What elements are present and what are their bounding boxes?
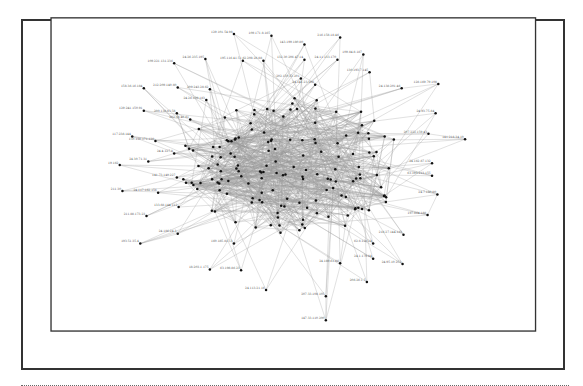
graph-node[interactable]	[263, 131, 265, 133]
graph-node[interactable]	[292, 166, 294, 168]
graph-node[interactable]	[212, 146, 214, 148]
graph-node[interactable]	[233, 155, 235, 157]
graph-node[interactable]	[184, 144, 186, 146]
graph-node[interactable]	[266, 108, 268, 110]
graph-node[interactable]	[383, 135, 385, 137]
graph-node[interactable]	[230, 140, 232, 142]
graph-node[interactable]	[182, 178, 184, 180]
graph-node[interactable]	[280, 205, 282, 207]
graph-node[interactable]	[315, 199, 317, 201]
graph-node[interactable]	[283, 205, 285, 207]
graph-node[interactable]	[361, 124, 363, 126]
graph-node[interactable]	[234, 138, 236, 140]
graph-node[interactable]	[237, 164, 239, 166]
graph-node[interactable]	[359, 173, 361, 175]
graph-node[interactable]	[334, 168, 336, 170]
graph-node[interactable]	[393, 138, 395, 140]
graph-node[interactable]	[368, 151, 370, 153]
graph-node[interactable]	[313, 138, 315, 140]
graph-node[interactable]	[316, 173, 318, 175]
graph-node[interactable]	[282, 174, 284, 176]
graph-node[interactable]	[192, 184, 194, 186]
graph-node[interactable]	[289, 139, 291, 141]
graph-node[interactable]	[301, 176, 303, 178]
graph-node[interactable]	[385, 201, 387, 203]
graph-node[interactable]	[197, 165, 199, 167]
graph-node[interactable]	[304, 227, 306, 229]
graph-node[interactable]	[211, 178, 213, 180]
graph-node[interactable]	[357, 131, 359, 133]
graph-node[interactable]	[316, 212, 318, 214]
graph-node[interactable]	[237, 136, 239, 138]
graph-node[interactable]	[226, 139, 228, 141]
graph-node[interactable]	[368, 138, 370, 140]
graph-node[interactable]	[336, 142, 338, 144]
graph-node[interactable]	[260, 177, 262, 179]
graph-node[interactable]	[357, 206, 359, 208]
graph-node[interactable]	[360, 111, 362, 113]
graph-node[interactable]	[226, 193, 228, 195]
graph-node[interactable]	[327, 215, 329, 217]
graph-node[interactable]	[347, 214, 349, 216]
graph-node[interactable]	[383, 194, 385, 196]
graph-node[interactable]	[276, 212, 278, 214]
graph-node[interactable]	[376, 174, 378, 176]
graph-node[interactable]	[267, 141, 269, 143]
graph-node[interactable]	[214, 210, 216, 212]
graph-node[interactable]	[211, 209, 213, 211]
graph-node[interactable]	[337, 156, 339, 158]
graph-node[interactable]	[227, 180, 229, 182]
graph-node[interactable]	[315, 99, 317, 101]
graph-node[interactable]	[302, 154, 304, 156]
graph-node[interactable]	[234, 221, 236, 223]
graph-node[interactable]	[335, 180, 337, 182]
graph-node[interactable]	[298, 201, 300, 203]
graph-node[interactable]	[277, 216, 279, 218]
graph-node[interactable]	[332, 187, 334, 189]
graph-node[interactable]	[190, 181, 192, 183]
graph-node[interactable]	[235, 167, 237, 169]
graph-node[interactable]	[302, 219, 304, 221]
graph-node[interactable]	[247, 182, 249, 184]
graph-node[interactable]	[272, 189, 274, 191]
graph-node[interactable]	[240, 175, 242, 177]
graph-node[interactable]	[298, 229, 300, 231]
graph-node[interactable]	[218, 182, 220, 184]
graph-node[interactable]	[296, 108, 298, 110]
graph-node[interactable]	[301, 139, 303, 141]
graph-node[interactable]	[325, 189, 327, 191]
graph-node[interactable]	[275, 172, 277, 174]
graph-node[interactable]	[218, 189, 220, 191]
graph-node[interactable]	[218, 146, 220, 148]
graph-node[interactable]	[305, 169, 307, 171]
graph-node[interactable]	[352, 180, 354, 182]
graph-node[interactable]	[345, 134, 347, 136]
graph-node[interactable]	[327, 177, 329, 179]
graph-node[interactable]	[224, 116, 226, 118]
graph-node[interactable]	[207, 167, 209, 169]
graph-node[interactable]	[253, 109, 255, 111]
graph-node[interactable]	[220, 178, 222, 180]
graph-node[interactable]	[314, 122, 316, 124]
graph-node[interactable]	[289, 108, 291, 110]
graph-node[interactable]	[235, 109, 237, 111]
graph-node[interactable]	[301, 223, 303, 225]
graph-node[interactable]	[265, 164, 267, 166]
graph-node[interactable]	[314, 107, 316, 109]
graph-node[interactable]	[198, 128, 200, 130]
graph-node[interactable]	[258, 199, 260, 201]
graph-node[interactable]	[368, 209, 370, 211]
graph-node[interactable]	[216, 163, 218, 165]
graph-node[interactable]	[274, 148, 276, 150]
graph-node[interactable]	[373, 155, 375, 157]
graph-node[interactable]	[261, 192, 263, 194]
graph-node[interactable]	[335, 111, 337, 113]
graph-node[interactable]	[358, 166, 360, 168]
graph-node[interactable]	[359, 177, 361, 179]
graph-node[interactable]	[306, 206, 308, 208]
graph-node[interactable]	[254, 226, 256, 228]
graph-node[interactable]	[352, 153, 354, 155]
graph-node[interactable]	[272, 109, 274, 111]
graph-node[interactable]	[251, 201, 253, 203]
graph-node[interactable]	[270, 224, 272, 226]
